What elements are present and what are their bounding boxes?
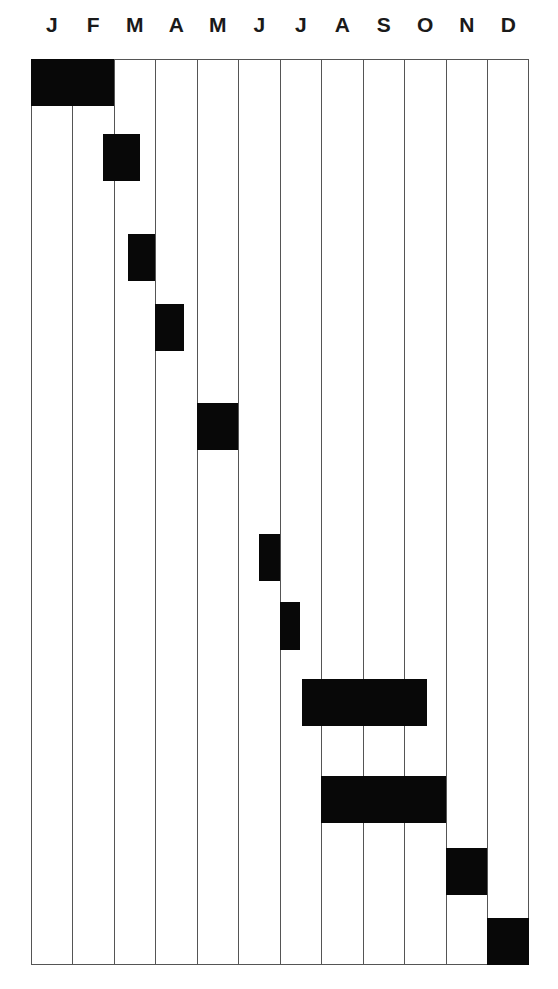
month-label: M xyxy=(197,12,239,38)
month-label: A xyxy=(156,12,198,38)
task-bar xyxy=(128,234,155,281)
month-gridline xyxy=(363,60,364,964)
month-gridline xyxy=(114,60,115,964)
month-gridline xyxy=(487,60,488,964)
month-label: J xyxy=(31,12,73,38)
month-label: F xyxy=(73,12,115,38)
gantt-grid xyxy=(31,59,529,965)
task-bar xyxy=(103,134,140,181)
task-bar xyxy=(302,679,427,726)
month-label: D xyxy=(488,12,530,38)
month-label: J xyxy=(280,12,322,38)
month-label: M xyxy=(114,12,156,38)
month-label: O xyxy=(405,12,447,38)
task-bar xyxy=(487,918,529,965)
month-gridline xyxy=(280,60,281,964)
task-bar xyxy=(197,403,239,450)
month-gridline xyxy=(197,60,198,964)
month-gridline xyxy=(72,60,73,964)
month-label: N xyxy=(446,12,488,38)
month-label: A xyxy=(322,12,364,38)
month-gridline xyxy=(321,60,322,964)
month-gridline xyxy=(404,60,405,964)
task-bar xyxy=(259,534,280,581)
month-label: J xyxy=(239,12,281,38)
month-gridline xyxy=(446,60,447,964)
task-bar xyxy=(280,602,301,650)
task-bar xyxy=(155,304,184,351)
task-bar xyxy=(446,848,488,895)
task-bar xyxy=(321,776,446,823)
month-axis-labels: JFMAMJJASOND xyxy=(31,12,529,38)
month-gridline xyxy=(238,60,239,964)
month-gridline xyxy=(155,60,156,964)
task-bar xyxy=(31,59,114,106)
month-label: S xyxy=(363,12,405,38)
